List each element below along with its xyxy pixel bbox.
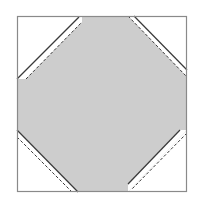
quilt-block-svg [0, 0, 198, 199]
quilt-block-diagram [0, 0, 198, 199]
